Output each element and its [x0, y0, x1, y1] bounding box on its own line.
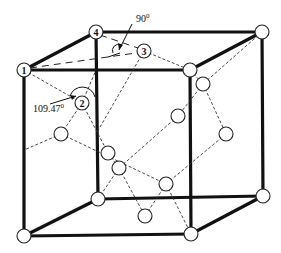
edge-bottom-right-depth — [191, 196, 263, 234]
atom-corner-front-top-right — [183, 63, 197, 77]
bond — [119, 168, 145, 216]
angle-label-109: 109.470 — [33, 102, 65, 114]
atom-3: 3 — [137, 44, 151, 58]
atom-corner-front-bottom-left — [17, 229, 31, 243]
svg-text:4: 4 — [94, 27, 99, 38]
edge-front-bottom — [24, 234, 191, 236]
edge-top-right-depth — [190, 32, 262, 70]
top-face-guide-line — [30, 53, 136, 68]
edge-back-bottom — [98, 196, 263, 199]
edge-front-right — [190, 70, 191, 234]
edge-bottom-left-depth — [24, 199, 98, 236]
atom-1: 1 — [17, 63, 31, 77]
edge-back-right — [262, 32, 263, 196]
angle-label-90: 900 — [136, 12, 150, 24]
atom-2: 2 — [75, 96, 89, 110]
atom-corner-back-bottom-right — [256, 189, 270, 203]
atom-interior — [138, 209, 152, 223]
bond — [203, 84, 226, 134]
edge-top-left-depth — [24, 32, 96, 70]
svg-text:1: 1 — [22, 65, 27, 76]
atom-interior — [219, 127, 233, 141]
bond — [96, 51, 144, 134]
atom-interior — [159, 177, 173, 191]
svg-text:3: 3 — [142, 46, 147, 57]
atoms: 1 4 3 2 — [17, 25, 270, 243]
atom-corner-front-bottom-right — [184, 227, 198, 241]
svg-text:2: 2 — [80, 98, 85, 109]
atom-interior — [171, 109, 185, 123]
atom-corner-back-top-right — [255, 25, 269, 39]
atom-interior — [196, 77, 210, 91]
diamond-cubic-unit-cell: 109.470 900 1 4 — [0, 0, 281, 253]
atom-interior — [101, 146, 115, 160]
atom-4: 4 — [89, 25, 103, 39]
bond — [119, 116, 178, 168]
bond — [166, 134, 226, 184]
atom-interior — [54, 127, 68, 141]
atom-corner-back-bottom-left — [91, 192, 105, 206]
atom-interior — [112, 161, 126, 175]
edge-back-left — [96, 32, 98, 199]
bond — [166, 184, 191, 234]
